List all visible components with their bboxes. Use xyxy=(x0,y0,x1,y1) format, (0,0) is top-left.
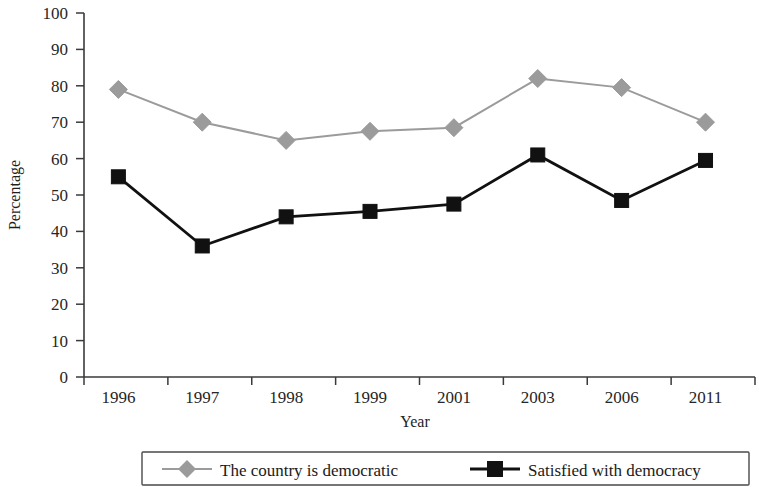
y-axis-ticks xyxy=(76,13,84,377)
square-marker xyxy=(487,461,503,477)
diamond-marker xyxy=(109,80,127,98)
y-tick-label: 30 xyxy=(51,259,68,278)
square-marker xyxy=(531,148,545,162)
diamond-marker xyxy=(361,122,379,140)
diamond-marker xyxy=(193,113,211,131)
series-layer xyxy=(109,70,714,253)
diamond-marker xyxy=(277,131,295,149)
y-tick-label: 40 xyxy=(51,222,68,241)
x-tick-label: 2011 xyxy=(689,388,722,407)
y-tick-label: 60 xyxy=(51,150,68,169)
y-tick-label: 80 xyxy=(51,77,68,96)
x-tick-label: 2003 xyxy=(521,388,555,407)
y-axis-title: Percentage xyxy=(6,160,24,230)
square-marker xyxy=(279,210,293,224)
square-marker xyxy=(699,153,713,167)
legend-label: The country is democratic xyxy=(220,461,398,480)
x-axis-title: Year xyxy=(400,413,430,430)
diamond-marker xyxy=(697,113,715,131)
square-marker xyxy=(195,239,209,253)
square-marker xyxy=(615,193,629,207)
x-tick-label: 1999 xyxy=(353,388,387,407)
y-tick-label: 100 xyxy=(43,4,69,23)
y-tick-label: 90 xyxy=(51,40,68,59)
square-marker xyxy=(447,197,461,211)
line-chart: 0102030405060708090100 19961997199819992… xyxy=(0,0,759,487)
y-axis-tick-labels: 0102030405060708090100 xyxy=(43,4,69,387)
legend-label: Satisfied with democracy xyxy=(528,461,701,480)
y-tick-label: 0 xyxy=(60,368,69,387)
x-tick-label: 2001 xyxy=(437,388,471,407)
data-series xyxy=(109,70,714,150)
data-series xyxy=(111,148,712,253)
square-marker xyxy=(363,204,377,218)
y-tick-label: 70 xyxy=(51,113,68,132)
diamond-marker xyxy=(529,70,547,88)
diamond-marker xyxy=(613,79,631,97)
x-tick-label: 1996 xyxy=(101,388,135,407)
diamond-marker xyxy=(445,119,463,137)
x-tick-label: 2006 xyxy=(605,388,639,407)
y-tick-label: 50 xyxy=(51,186,68,205)
y-tick-label: 10 xyxy=(51,332,68,351)
chart-container: 0102030405060708090100 19961997199819992… xyxy=(0,0,759,487)
y-tick-label: 20 xyxy=(51,295,68,314)
chart-legend: The country is democraticSatisfied with … xyxy=(142,452,749,485)
square-marker xyxy=(111,170,125,184)
x-axis-tick-labels: 19961997199819992001200320062011 xyxy=(101,388,722,407)
x-tick-label: 1997 xyxy=(185,388,220,407)
x-tick-label: 1998 xyxy=(269,388,303,407)
x-axis-ticks xyxy=(84,377,755,385)
